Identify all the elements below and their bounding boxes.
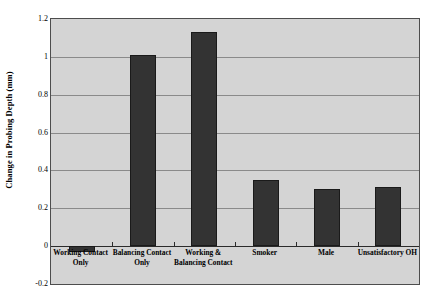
plot-area bbox=[50, 18, 420, 285]
gridline bbox=[51, 133, 419, 134]
y-axis-tick-label: 0.6 bbox=[18, 127, 48, 136]
x-axis-category-label: Unsatisfactory OH bbox=[358, 248, 417, 258]
x-axis-label-line: Male bbox=[296, 248, 355, 258]
x-axis-label-line: Only bbox=[51, 258, 110, 268]
y-axis-tick-label: 0.8 bbox=[18, 89, 48, 98]
y-axis-tick-label: 0.2 bbox=[18, 203, 48, 212]
gridline bbox=[51, 57, 419, 58]
y-axis-tick-label: -0.2 bbox=[18, 279, 48, 288]
x-axis-category-label: Smoker bbox=[235, 248, 294, 258]
y-axis-tick-labels: 1.210.80.60.40.20-0.2 bbox=[14, 0, 48, 302]
bar bbox=[253, 180, 279, 246]
bar bbox=[191, 32, 217, 246]
zero-axis-line bbox=[51, 246, 419, 247]
bar bbox=[375, 187, 401, 246]
x-axis-tick-mark bbox=[112, 242, 113, 246]
x-axis-label-line: Unsatisfactory OH bbox=[358, 248, 417, 258]
gridline bbox=[51, 95, 419, 96]
x-axis-tick-mark bbox=[358, 242, 359, 246]
x-axis-tick-mark bbox=[296, 242, 297, 246]
x-axis-label-line: Working & bbox=[174, 248, 233, 258]
x-axis-label-line: Working Contact bbox=[51, 248, 110, 258]
x-axis-category-labels: Working ContactOnlyBalancing ContactOnly… bbox=[50, 248, 420, 284]
y-axis-tick-label: 0 bbox=[18, 241, 48, 250]
y-axis-tick-label: 0.4 bbox=[18, 165, 48, 174]
gridline bbox=[51, 170, 419, 171]
bar bbox=[130, 55, 156, 246]
bar bbox=[314, 189, 340, 246]
x-axis-category-label: Balancing ContactOnly bbox=[112, 248, 171, 267]
bar-chart-figure: Change in Probing Depth (mm) 1.210.80.60… bbox=[0, 0, 428, 302]
x-axis-label-line: Balancing Contact bbox=[174, 258, 233, 268]
x-axis-tick-mark bbox=[174, 242, 175, 246]
x-axis-category-label: Male bbox=[296, 248, 355, 258]
x-axis-label-line: Only bbox=[112, 258, 171, 268]
x-axis-category-label: Working ContactOnly bbox=[51, 248, 110, 267]
x-axis-category-label: Working &Balancing Contact bbox=[174, 248, 233, 267]
y-axis-title-text: Change in Probing Depth (mm) bbox=[4, 71, 14, 188]
x-axis-label-line: Smoker bbox=[235, 248, 294, 258]
x-axis-label-line: Balancing Contact bbox=[112, 248, 171, 258]
gridline bbox=[51, 208, 419, 209]
y-axis-tick-label: 1.2 bbox=[18, 14, 48, 23]
y-axis-tick-label: 1 bbox=[18, 51, 48, 60]
x-axis-tick-mark bbox=[235, 242, 236, 246]
